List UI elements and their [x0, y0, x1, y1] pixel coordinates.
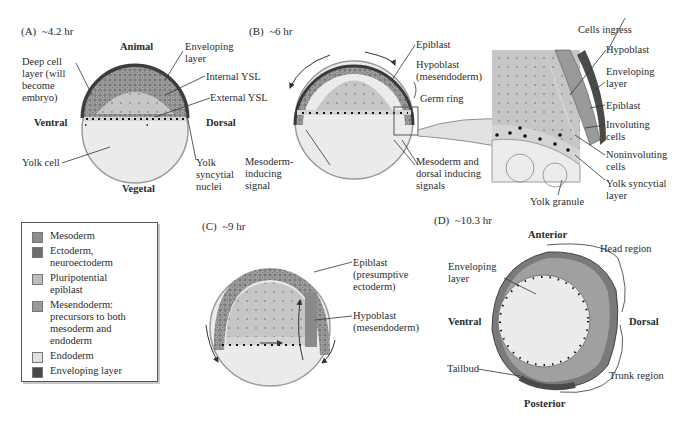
inset-ysl-label: Yolk syncytial layer [606, 178, 666, 202]
panel-b-mesoderm-inducing-label: Mesoderm- inducing signal [245, 156, 293, 192]
legend-label: Mesoderm [50, 230, 95, 242]
panel-a-vegetal-label: Vegetal [122, 183, 155, 195]
panel-b-germ-ring-label: Germ ring [420, 93, 463, 105]
embryo-a [62, 51, 210, 183]
inset-cells-ingress-label: Cells ingress [578, 24, 632, 36]
legend-swatch-ectoderm [32, 247, 43, 258]
inset-involuting-label: Involuting cells [606, 119, 650, 143]
panel-b-title: (B) ~6 hr [249, 25, 293, 37]
legend-item-epiblast: Pluripotential epiblast [32, 272, 107, 296]
panel-d-anterior-label: Anterior [528, 229, 567, 241]
panel-a-title: (A) ~4.2 hr [21, 25, 73, 37]
panel-c-title: (C) ~9 hr [202, 220, 246, 232]
legend-swatch-mesoderm [32, 232, 43, 243]
embryo-c [206, 262, 352, 386]
panel-d-posterior-label: Posterior [524, 398, 565, 410]
inset-hypoblast-label: Hypoblast [606, 44, 649, 56]
panel-b-hypoblast-label: Hypoblast (mesendoderm) [416, 59, 482, 83]
panel-a-yolk-nuclei-label: Yolk syncytial nuclei [196, 157, 234, 193]
legend-box: Mesoderm Ectoderm, neuroectoderm Pluripo… [21, 222, 158, 382]
legend-swatch-endoderm [32, 352, 43, 363]
inset-enveloping-label: Enveloping layer [606, 66, 654, 90]
panel-a-animal-label: Animal [120, 41, 153, 53]
panel-a-ventral-label: Ventral [34, 117, 67, 129]
panel-d-head-region-label: Head region [600, 243, 652, 255]
panel-b-dorsal-inducing-label: Mesoderm and dorsal inducing signals [416, 156, 481, 192]
legend-label: Pluripotential epiblast [50, 272, 107, 296]
panel-c-epiblast-label: Epiblast (presumptive ectoderm) [353, 257, 408, 293]
embryo-d [478, 244, 625, 393]
legend-label: Enveloping layer [50, 365, 122, 377]
panel-a-external-ysl-label: External YSL [210, 92, 268, 104]
legend-item-mesoderm: Mesoderm [32, 230, 95, 243]
panel-d-dorsal-label: Dorsal [629, 316, 659, 328]
inset-epiblast-label: Epiblast [606, 100, 640, 112]
panel-d-enveloping-label: Enveloping layer [448, 261, 496, 285]
panel-c-hypoblast-label: Hypoblast (mesendoderm) [353, 310, 419, 334]
legend-swatch-epiblast [32, 274, 43, 285]
legend-item-enveloping: Enveloping layer [32, 365, 122, 378]
panel-a-enveloping-label: Enveloping layer [185, 41, 233, 65]
panel-d-title: (D) ~10.3 hr [434, 214, 492, 226]
legend-label: Mesendoderm: precursors to both mesoderm… [50, 299, 126, 347]
panel-d-trunk-region-label: Trunk region [609, 370, 664, 382]
panel-a-yolk-cell-label: Yolk cell [22, 157, 60, 169]
inset-yolk-granule-label: Yolk granule [530, 196, 584, 208]
legend-item-ectoderm: Ectoderm, neuroectoderm [32, 245, 113, 269]
panel-a-internal-ysl-label: Internal YSL [206, 71, 261, 83]
panel-a-dorsal-label: Dorsal [206, 117, 236, 129]
legend-swatch-mesendoderm [32, 301, 43, 312]
legend-item-mesendoderm: Mesendoderm: precursors to both mesoderm… [32, 299, 126, 347]
legend-swatch-enveloping [32, 367, 43, 378]
legend-label: Ectoderm, neuroectoderm [50, 245, 113, 269]
legend-item-endoderm: Endoderm [32, 350, 94, 363]
panel-b-epiblast-label: Epiblast [416, 39, 450, 51]
legend-label: Endoderm [50, 350, 94, 362]
panel-d-ventral-label: Ventral [448, 316, 481, 328]
inset-noninvoluting-label: Noninvoluting cells [606, 149, 667, 173]
panel-d-tailbud-label: Tailbud [447, 363, 479, 375]
panel-a-deep-cell-label: Deep cell layer (will become embryo) [22, 56, 65, 104]
